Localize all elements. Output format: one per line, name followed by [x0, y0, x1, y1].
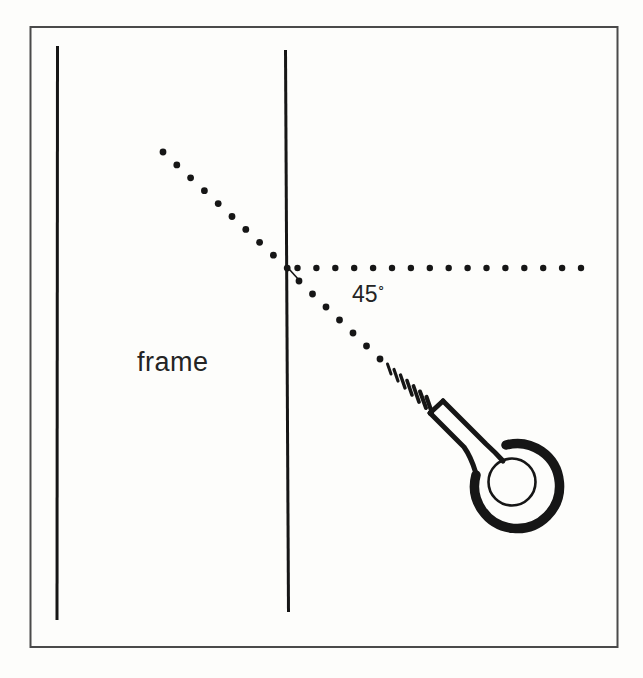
path-dot — [229, 213, 236, 220]
horizontal-dotted-path — [294, 265, 584, 271]
thread-mark — [394, 370, 398, 382]
angle-value: 45 — [352, 281, 378, 307]
path-dot — [363, 343, 370, 350]
eye-ring-outer — [475, 444, 560, 529]
path-dot — [332, 265, 338, 271]
shank-upper-edge — [443, 401, 503, 461]
path-dot — [173, 162, 180, 169]
path-dot — [256, 239, 263, 246]
path-dot — [187, 174, 194, 181]
path-dot — [483, 265, 489, 271]
path-dot — [502, 265, 508, 271]
screw-thread-marks — [388, 364, 433, 413]
path-dot — [242, 226, 249, 233]
path-dot — [427, 265, 433, 271]
path-dot — [377, 356, 384, 363]
path-dot — [215, 200, 222, 207]
thread-mark — [420, 392, 426, 409]
thread-mark — [414, 386, 420, 402]
eye-ring-inner — [489, 459, 536, 506]
path-dot — [351, 265, 357, 271]
shank-lower-edge — [430, 413, 476, 472]
path-dot — [294, 265, 300, 271]
path-dot — [309, 291, 316, 298]
degree-symbol: ° — [379, 283, 384, 298]
figure-border — [31, 27, 618, 647]
incoming-dotted-path — [160, 149, 291, 272]
path-dot — [389, 265, 395, 271]
path-dot — [446, 265, 452, 271]
eye-screw — [430, 401, 560, 529]
path-dot — [408, 265, 414, 271]
path-dot — [521, 265, 527, 271]
thread-mark — [388, 364, 392, 374]
path-dot — [160, 149, 167, 156]
path-dot — [270, 252, 277, 259]
path-dot — [540, 265, 546, 271]
path-dot — [559, 265, 565, 271]
path-dot — [350, 330, 357, 337]
thread-mark — [401, 375, 406, 388]
diagram-canvas — [0, 0, 643, 678]
path-dot — [313, 265, 319, 271]
path-dot — [336, 317, 343, 324]
frame-left-line — [57, 46, 58, 620]
path-dot — [201, 187, 208, 194]
figure-page: frame 45° — [0, 0, 643, 678]
path-dot — [296, 278, 303, 285]
path-dot — [370, 265, 376, 271]
angle-label: 45° — [352, 281, 383, 308]
frame-label: frame — [137, 347, 209, 378]
thread-mark — [407, 381, 412, 396]
path-dot — [323, 304, 330, 311]
path-dot — [578, 265, 584, 271]
path-dot — [464, 265, 470, 271]
frame-right-line — [286, 50, 289, 612]
